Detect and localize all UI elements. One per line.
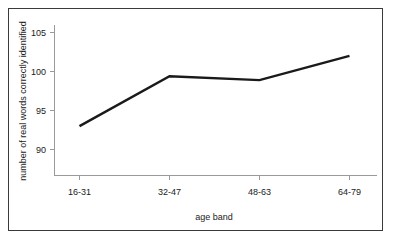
x-tick-label-3: 48-63 [248, 187, 271, 197]
y-tick-label-95: 95 [36, 106, 46, 116]
line-chart: 105 100 95 90 16-31 32-47 48-63 64-79 [9, 9, 382, 230]
y-tick-label-90: 90 [36, 145, 46, 155]
figure-border: 105 100 95 90 16-31 32-47 48-63 64-79 [8, 8, 383, 231]
x-axis-title: age band [195, 212, 233, 222]
y-axis-tick-labels: 105 100 95 90 [31, 28, 46, 155]
x-axis-ticks [80, 176, 350, 181]
figure-container: 105 100 95 90 16-31 32-47 48-63 64-79 [0, 0, 393, 241]
x-tick-label-2: 32-47 [158, 187, 181, 197]
x-tick-label-1: 16-31 [68, 187, 91, 197]
x-axis-tick-labels: 16-31 32-47 48-63 64-79 [68, 187, 361, 197]
y-axis-ticks [50, 33, 55, 150]
y-tick-label-100: 100 [31, 67, 46, 77]
y-tick-label-105: 105 [31, 28, 46, 38]
data-series-line [80, 56, 350, 126]
y-axis-title: number of real words correctly identifie… [18, 21, 28, 181]
x-tick-label-4: 64-79 [338, 187, 361, 197]
